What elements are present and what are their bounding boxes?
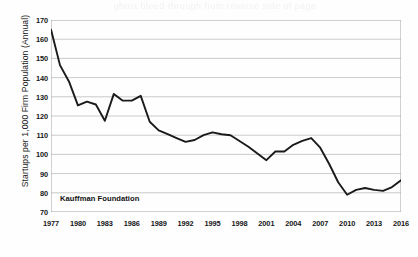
x-tick-label: 1995: [205, 219, 221, 228]
x-tick-label: 2007: [312, 219, 328, 228]
x-tick-label: 1986: [124, 219, 140, 228]
y-tick-label: 70: [28, 208, 48, 217]
startup-rate-chart-figure: ghost bleed-through from reverse side of…: [0, 0, 418, 257]
scan-bleedthrough-artifact: ghost bleed-through from reverse side of…: [30, 2, 400, 19]
x-tick-label: 1992: [178, 219, 194, 228]
x-tick-label: 2016: [393, 219, 409, 228]
y-axis-tick-labels: 708090100110120130140150160170: [26, 20, 48, 212]
y-tick-label: 80: [28, 188, 48, 197]
x-tick-label: 1977: [43, 219, 59, 228]
y-tick-label: 130: [28, 92, 48, 101]
plot-area: [51, 20, 401, 212]
y-tick-label: 100: [28, 150, 48, 159]
y-tick-label: 160: [28, 35, 48, 44]
x-tick-label: 1998: [231, 219, 247, 228]
y-tick-label: 110: [28, 131, 48, 140]
x-tick-label: 1983: [97, 219, 113, 228]
x-tick-label: 1980: [70, 219, 86, 228]
y-tick-label: 170: [28, 16, 48, 25]
startup-rate-line-series: [51, 30, 401, 195]
x-tick-label: 2001: [258, 219, 274, 228]
x-tick-label: 1989: [151, 219, 167, 228]
y-tick-label: 140: [28, 73, 48, 82]
y-tick-label: 90: [28, 169, 48, 178]
gridlines: [51, 39, 401, 193]
source-annotation-kauffman: Kauffman Foundation: [60, 194, 139, 203]
x-tick-label: 2010: [339, 219, 355, 228]
x-axis-tick-labels: 1977198019831986198919921995199820012004…: [51, 219, 401, 233]
x-tick-label: 2013: [366, 219, 382, 228]
y-tick-label: 150: [28, 54, 48, 63]
x-tick-label: 2004: [285, 219, 301, 228]
line-chart-svg: [51, 20, 401, 212]
y-tick-label: 120: [28, 112, 48, 121]
